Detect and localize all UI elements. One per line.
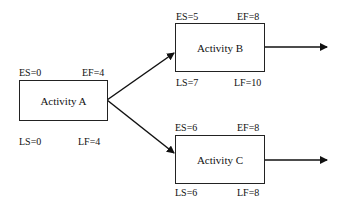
node-b-lf: LF=10 (234, 78, 261, 88)
arrow-a-to-c (107, 100, 174, 153)
node-c-ls: LS=6 (175, 188, 197, 198)
node-a-label: Activity A (40, 95, 86, 107)
node-activity-b: Activity B (175, 23, 265, 72)
node-a-lf: LF=4 (78, 137, 100, 147)
node-activity-c: Activity C (175, 135, 265, 184)
node-b-label: Activity B (197, 42, 243, 54)
node-c-label: Activity C (197, 154, 243, 166)
node-c-lf: LF=8 (237, 188, 259, 198)
node-a-ef: EF=4 (82, 68, 104, 78)
node-c-ef: EF=8 (237, 123, 259, 133)
node-activity-a: Activity A (19, 80, 108, 121)
node-b-ls: LS=7 (176, 78, 198, 88)
node-b-es: ES=5 (176, 12, 198, 22)
arrow-a-to-b (107, 53, 174, 100)
node-c-es: ES=6 (175, 123, 197, 133)
node-a-ls: LS=0 (19, 137, 41, 147)
node-a-es: ES=0 (19, 68, 41, 78)
node-b-ef: EF=8 (237, 12, 259, 22)
